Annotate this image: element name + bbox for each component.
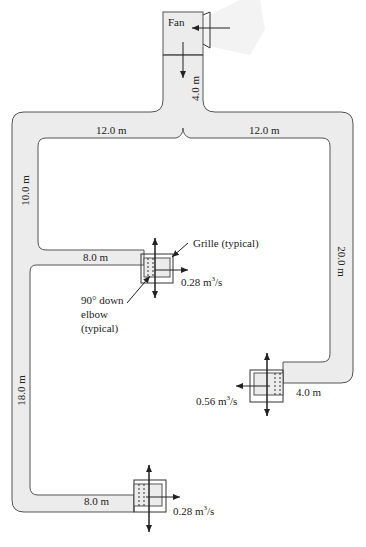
grille-1 <box>141 238 188 298</box>
segment-fan-riser-label: 4.0 m <box>190 74 201 104</box>
segment-top-left-label: 12.0 m <box>96 125 127 136</box>
elbow-leader-arrow <box>127 276 150 303</box>
grille-leader-arrow <box>172 243 188 257</box>
segment-left-upper-label: 10.0 m <box>20 174 31 208</box>
segment-top-right-label: 12.0 m <box>249 125 280 136</box>
grille-3 <box>134 465 180 532</box>
grille-3-flow: 0.28 m3/s <box>173 506 214 517</box>
elbow-annotation-line-1: 90° down <box>81 295 124 306</box>
elbow-annotation-line-3: (typical) <box>81 323 118 334</box>
segment-right-vertical-label: 20.0 m <box>336 244 347 280</box>
fan-label: Fan <box>168 17 185 28</box>
grille-2-flow: 0.56 m3/s <box>196 396 237 407</box>
duct-system-drawing <box>0 0 366 547</box>
segment-branch-1-label: 8.0 m <box>83 252 108 263</box>
grille-1-flow: 0.28 m3/s <box>181 277 222 288</box>
segment-branch-3-label: 8.0 m <box>84 496 109 507</box>
grille-2 <box>236 353 283 416</box>
segment-branch-2-label: 4.0 m <box>296 387 321 398</box>
elbow-annotation-line-2: elbow <box>81 309 108 320</box>
grille-annotation: Grille (typical) <box>193 238 259 249</box>
duct-network <box>12 12 353 512</box>
segment-left-lower-label: 18.0 m <box>16 374 27 408</box>
